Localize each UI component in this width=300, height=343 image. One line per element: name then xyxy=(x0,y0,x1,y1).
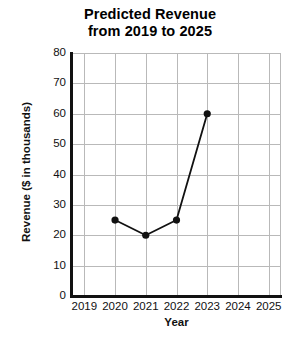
y-tick-label: 70 xyxy=(32,77,66,89)
x-tick-label: 2025 xyxy=(249,300,289,313)
x-axis-title: Year xyxy=(72,316,281,328)
y-tick-label: 30 xyxy=(32,199,66,211)
y-tick-label: 20 xyxy=(32,229,66,241)
y-tick-label: 40 xyxy=(32,169,66,181)
y-axis-tick-labels: 80706050403020100 xyxy=(26,0,66,343)
x-axis-spine xyxy=(70,295,282,298)
series-markers xyxy=(111,110,210,239)
data-point-marker xyxy=(204,110,211,117)
y-tick-label: 60 xyxy=(32,108,66,120)
series-line-predicted-revenue xyxy=(72,53,281,296)
y-axis-spine xyxy=(70,52,73,298)
y-tick-label: 80 xyxy=(32,47,66,59)
x-axis-tick-labels: 2019202020212022202320242025 xyxy=(0,300,300,316)
y-tick-label: 50 xyxy=(32,138,66,150)
plot-area xyxy=(72,53,281,296)
chart-figure: Predicted Revenue from 2019 to 2025 8070… xyxy=(0,0,300,343)
y-axis-title: Revenue ($ in thousands) xyxy=(20,51,32,294)
y-tick-label: 10 xyxy=(32,260,66,272)
data-point-marker xyxy=(173,216,180,223)
series-polyline xyxy=(115,114,207,236)
data-point-marker xyxy=(142,232,149,239)
data-point-marker xyxy=(111,216,118,223)
